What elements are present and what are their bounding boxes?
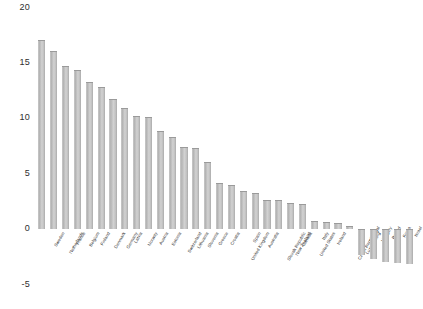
bar-cap [370,229,377,230]
bar [370,229,377,259]
bar-cap [192,148,199,149]
bar [299,204,306,228]
bar [133,116,140,229]
bar-cap [157,131,164,132]
y-axis-tick-label: -5 [4,280,30,289]
bar-cap [382,229,389,230]
bar-cap [275,200,282,201]
y-axis-tick-label: 0 [4,224,30,233]
bar [216,183,223,228]
bar [121,108,128,229]
bar-cap [334,223,341,224]
bar [50,51,57,228]
bar-cap [98,87,105,88]
bar-cap [358,229,365,230]
bar-cap [133,116,140,117]
bar-cap [145,117,152,118]
bar [192,148,199,229]
bar [86,82,93,228]
bar-cap [252,193,259,194]
bar-cap [86,82,93,83]
bar-cap [287,203,294,204]
y-axis-tick-label: 20 [4,3,30,12]
bar-cap [406,229,413,230]
x-axis-tick-label: Norway [147,231,159,247]
bar [145,117,152,229]
bar [228,185,235,228]
bar-cap [240,191,247,192]
bar-cap [216,183,223,184]
bar [240,191,247,229]
bar [204,162,211,228]
bar-cap [394,229,401,230]
bar [275,200,282,229]
x-axis-tick-label: Ireland [336,231,347,245]
bar [169,137,176,229]
y-axis-tick-label: 10 [4,113,30,122]
x-axis-tick-label: Croatia [229,231,241,246]
bar-cap [346,226,353,227]
bar-cap [169,137,176,138]
bar [157,131,164,229]
x-axis-tick-label: Sweden [53,231,65,248]
bar [62,66,69,229]
x-axis-tick-label: France [75,231,86,246]
bar-cap [62,66,69,67]
bar [406,229,413,264]
bar [323,222,330,229]
y-axis-tick-label: 5 [4,169,30,178]
bar-cap [74,70,81,71]
bar [287,203,294,228]
bar [252,193,259,228]
bar [358,229,365,256]
bar-cap [109,99,116,100]
bar [74,70,81,228]
bar-cap [180,147,187,148]
bar-cap [311,221,318,222]
bar [334,223,341,229]
bar [346,226,353,228]
bar [109,99,116,229]
y-axis-tick-label: 15 [4,58,30,67]
x-axis-tick-label: Austria [158,231,169,246]
bar-cap [121,108,128,109]
x-axis-tick-label: Israel [413,225,423,237]
bar [38,40,45,228]
bar-cap [50,51,57,52]
bar-cap [299,204,306,205]
bar [98,87,105,229]
plot-area: SwedenNetherlandsFranceBelgiumFinlandDen… [32,0,421,309]
bar-cap [323,222,330,223]
bar [394,229,401,263]
bar-cap [228,185,235,186]
bar-cap [263,200,270,201]
bar-cap [204,162,211,163]
bar [311,221,318,229]
bar-cap [38,40,45,41]
y-axis: 20151050-5 [0,0,30,309]
x-axis-tick-label: Finland [99,231,111,246]
x-axis-tick-label: Belgium [88,231,100,248]
bar [180,147,187,229]
x-axis-tick-label: Estonia [170,231,182,246]
bar [263,200,270,229]
bar [382,229,389,262]
